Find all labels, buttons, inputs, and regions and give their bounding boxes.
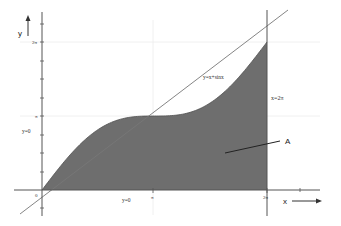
y-direction-arrow (26, 15, 31, 36)
label-curve: y=x+sinx (203, 74, 224, 80)
x-direction-arrow (292, 199, 322, 204)
x-tick-2pi: 2π (263, 195, 269, 200)
x-axis-label: x (283, 197, 287, 206)
y-tick-pi: π (35, 114, 38, 119)
label-y-zero-left: y=0 (22, 128, 31, 134)
origin-label: 0 (35, 193, 38, 198)
x-tick-pi: π (151, 195, 154, 200)
label-y-zero-bottom: y=0 (122, 197, 131, 203)
label-region-A: A (285, 137, 291, 146)
y-axis-label: y (18, 29, 22, 38)
diagram-canvas: y x 2π π y=0 0 π 2π y=0 y=x+sinx x=2π A (0, 0, 341, 226)
label-x-equals-2pi: x=2π (271, 95, 283, 101)
y-tick-2pi: 2π (32, 40, 38, 45)
